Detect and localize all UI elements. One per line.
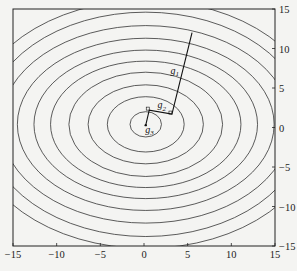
y-tick-label: 10 — [279, 44, 290, 55]
x-tick-label: 10 — [226, 249, 237, 260]
x-tick-label: −5 — [95, 249, 106, 260]
path-label-g1: g1 — [171, 65, 180, 79]
x-tick-label: 5 — [185, 249, 190, 260]
path-labels: g1g2g3 — [145, 65, 179, 138]
path-label-g2: g2 — [157, 99, 166, 113]
y-tick-label: −10 — [279, 202, 295, 213]
y-tick-label: 15 — [279, 4, 290, 15]
x-tick-label: −15 — [5, 249, 21, 260]
y-axis-ticks: 151050−5−10−15 — [272, 4, 295, 252]
y-tick-label: 0 — [279, 123, 284, 134]
x-tick-label: 0 — [141, 249, 146, 260]
x-tick-label: −10 — [48, 249, 64, 260]
y-tick-label: −15 — [279, 241, 295, 252]
contour-chart: g1g2g3 −15−10−5051015 151050−5−10−15 — [0, 0, 297, 271]
y-tick-label: 5 — [279, 83, 284, 94]
path-label-g3: g3 — [145, 124, 154, 138]
y-tick-label: −5 — [279, 162, 290, 173]
